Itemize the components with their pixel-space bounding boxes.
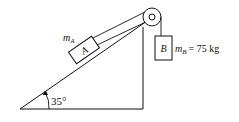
- block-b: B: [155, 36, 172, 60]
- angle-arc-icon: [43, 91, 49, 109]
- rope-a: [93, 12, 150, 45]
- pulley-icon: [143, 8, 161, 26]
- mass-b-label: mB= 75 kg: [175, 43, 219, 56]
- angle-label: 35°: [51, 95, 66, 107]
- incline-triangle: [20, 21, 147, 109]
- mass-a-label: mA: [63, 32, 75, 45]
- incline-pulley-diagram: 35° A B mA mB= 75 kg: [0, 0, 239, 122]
- block-b-letter: B: [160, 43, 166, 54]
